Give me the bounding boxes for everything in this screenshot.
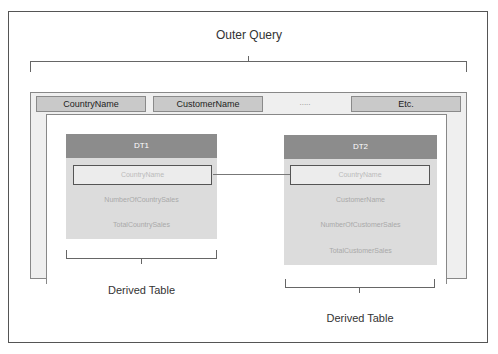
column-country-name: CountryName [36,96,146,112]
outer-query-title: Outer Query [0,28,498,42]
dt2-column: CustomerName [284,196,437,203]
dt2-column: TotalCustomerSales [284,247,437,254]
dt1-column: TotalCountrySales [66,221,217,228]
dt1-bracket [66,250,217,259]
column-customer-name: CustomerName [153,96,263,112]
dt2-column: NumberOfCustomerSales [284,221,437,228]
outer-query-bracket-tick [248,56,249,62]
dt1-label: Derived Table [66,284,217,296]
column-ellipsis: ..... [290,96,320,112]
derived-table-dt1: DT1 CountryName NumberOfCountrySales Tot… [66,134,217,239]
dt2-bracket-tick [359,288,360,293]
join-connector-line [213,174,290,175]
outer-query-bracket [30,61,467,72]
dt2-label: Derived Table [285,312,435,324]
derived-table-dt2: DT2 CountryName CustomerName NumberOfCus… [284,135,437,265]
dt2-bracket [285,279,435,288]
dt2-header: DT2 [284,135,437,159]
dt1-header: DT1 [66,134,217,158]
dt1-column: NumberOfCountrySales [66,196,217,203]
dt1-join-column: CountryName [73,165,212,185]
dt1-bracket-tick [141,259,142,264]
column-etc: Etc. [351,96,461,112]
dt2-join-column: CountryName [290,165,430,185]
